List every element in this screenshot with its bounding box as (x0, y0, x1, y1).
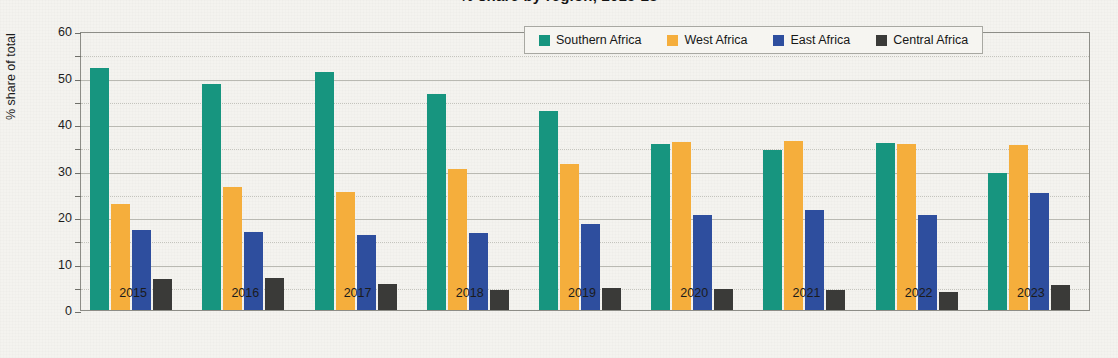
plot-area (80, 32, 1090, 311)
bar (651, 144, 670, 310)
bar-group (90, 33, 172, 310)
legend-item-label: East Africa (790, 33, 850, 47)
y-axis-title: % share of total (4, 0, 18, 120)
y-axis-tick-label: 10 (36, 258, 72, 272)
y-axis-tick-mark (75, 126, 81, 127)
y-axis-tick-mark (75, 56, 81, 57)
y-axis-tick-mark (75, 219, 81, 220)
legend-swatch-icon (667, 35, 678, 46)
legend-item-label: Southern Africa (556, 33, 641, 47)
bar (202, 84, 221, 310)
x-axis-tick-label: 2018 (456, 286, 484, 300)
bar-group (988, 33, 1070, 310)
y-axis-tick-mark (75, 196, 81, 197)
chart-title: % share by region, 2015-23 (0, 0, 1118, 5)
bar (90, 68, 109, 310)
bar-group (202, 33, 284, 310)
legend-item-label: West Africa (684, 33, 747, 47)
bar-group (763, 33, 845, 310)
bar (153, 279, 172, 310)
legend-item[interactable]: East Africa (773, 33, 850, 47)
bar-chart: % share by region, 2015-23 % share of to… (0, 0, 1118, 358)
bar (988, 173, 1007, 310)
bar (539, 111, 558, 310)
y-axis-tick-label: 20 (36, 211, 72, 225)
legend-swatch-icon (539, 35, 550, 46)
x-axis-tick-label: 2017 (344, 286, 372, 300)
legend-swatch-icon (773, 35, 784, 46)
y-axis-tick-mark (75, 103, 81, 104)
bar (265, 278, 284, 310)
x-axis-tick-label: 2020 (680, 286, 708, 300)
y-axis-tick-label: 50 (36, 72, 72, 86)
bar-group (539, 33, 621, 310)
x-axis-tick-label: 2015 (119, 286, 147, 300)
legend-item[interactable]: Southern Africa (539, 33, 641, 47)
chart-legend: Southern AfricaWest AfricaEast AfricaCen… (524, 26, 983, 54)
bar (427, 94, 446, 310)
y-axis-tick-mark (75, 312, 81, 313)
bar (490, 290, 509, 310)
y-axis-tick-mark (75, 33, 81, 34)
y-axis-tick-label: 40 (36, 118, 72, 132)
bar (672, 142, 691, 310)
y-axis-tick-mark (75, 266, 81, 267)
legend-item[interactable]: West Africa (667, 33, 747, 47)
x-axis-tick-label: 2021 (793, 286, 821, 300)
y-axis-tick-label: 30 (36, 165, 72, 179)
legend-item[interactable]: Central Africa (876, 33, 968, 47)
bar-group (427, 33, 509, 310)
bar (714, 289, 733, 310)
x-axis-tick-label: 2022 (905, 286, 933, 300)
x-axis-tick-label: 2016 (231, 286, 259, 300)
y-axis-tick-mark (75, 242, 81, 243)
x-axis-tick-label: 2023 (1017, 286, 1045, 300)
legend-swatch-icon (876, 35, 887, 46)
bar (939, 292, 958, 310)
bar-group (876, 33, 958, 310)
bar (826, 290, 845, 310)
legend-item-label: Central Africa (893, 33, 968, 47)
bar (876, 143, 895, 310)
bar (315, 72, 334, 310)
y-axis-tick-mark (75, 289, 81, 290)
bar-group (651, 33, 733, 310)
x-axis-tick-label: 2019 (568, 286, 596, 300)
bar (1051, 285, 1070, 310)
bar-group (315, 33, 397, 310)
y-axis-tick-label: 60 (36, 25, 72, 39)
bar (378, 284, 397, 311)
bar (602, 288, 621, 310)
y-axis-tick-mark (75, 173, 81, 174)
y-axis-tick-mark (75, 149, 81, 150)
bar (784, 141, 803, 310)
y-axis-tick-mark (75, 80, 81, 81)
y-axis-tick-label: 0 (36, 304, 72, 318)
bar (763, 150, 782, 310)
